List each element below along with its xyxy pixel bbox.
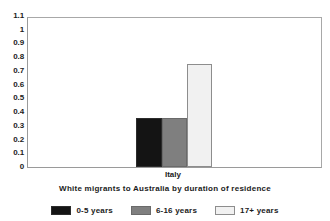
y-axis-tick-label: 0.3 [0,121,24,130]
legend-item: 0-5 years [51,206,113,215]
y-axis-tick-label: 1.1 [0,11,24,20]
y-axis-tick-label: 0.8 [0,52,24,61]
axis-title: White migrants to Australia by duration … [0,184,330,194]
y-axis-tick-label: 0.4 [0,107,24,116]
bar-chart-figure: 1.110.90.80.70.60.50.40.30.20.10 Italy W… [0,0,330,221]
y-axis-tick-label: 0.5 [0,93,24,102]
legend-color-swatch [51,206,71,215]
y-axis-tick-label: 0.6 [0,80,24,89]
bar-0-5-years [136,118,162,167]
legend-item-label: 6-16 years [156,206,197,215]
legend-item: 6-16 years [131,206,197,215]
y-axis-tick-label: 0.2 [0,135,24,144]
y-axis-tick-label: 0.7 [0,66,24,75]
bar-17-years [187,64,212,167]
bar-6-16-years [162,118,187,167]
y-axis-tick-label: 0 [0,162,24,171]
legend-color-swatch [131,206,151,215]
y-axis-tick-label: 0.1 [0,148,24,157]
legend-item: 17+ years [215,206,279,215]
y-axis-tick-label: 0.9 [0,38,24,47]
legend-item-label: 0-5 years [76,206,113,215]
legend-color-swatch [215,206,235,215]
plot-area [27,17,322,168]
x-axis-category-labels: Italy [27,170,322,182]
y-axis-tick-label: 1 [0,25,24,34]
legend-item-label: 17+ years [240,206,279,215]
bars-group [28,18,321,167]
legend: 0-5 years6-16 years17+ years [0,203,330,217]
y-axis: 1.110.90.80.70.60.50.40.30.20.10 [0,11,24,175]
x-axis-category-label: Italy [135,170,211,180]
